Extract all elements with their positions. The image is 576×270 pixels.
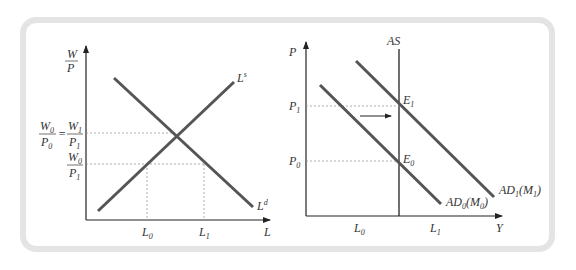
svg-text:=: = bbox=[58, 127, 66, 141]
svg-text:W0: W0 bbox=[68, 150, 82, 166]
e1-label: E1 bbox=[402, 93, 414, 109]
labor-demand-curve bbox=[114, 78, 253, 207]
ad-as-chart: P Y AS P1 P0 E1 E0 AD0(M0) AD1(M1) L0 L1 bbox=[288, 34, 541, 237]
svg-text:P1: P1 bbox=[68, 135, 80, 151]
labor-market-chart: W P L Ls Ld W0 P0 = W1 P1 W0 P1 L0 L1 bbox=[39, 46, 271, 241]
as-label: AS bbox=[386, 34, 400, 48]
x-axis-label: L bbox=[263, 225, 271, 239]
x-tick-l1-right: L1 bbox=[429, 221, 441, 237]
x-tick-l0-right: L0 bbox=[353, 221, 365, 237]
x-tick-l1: L1 bbox=[198, 225, 210, 241]
ad1-curve bbox=[356, 61, 494, 197]
economics-diagram: W P L Ls Ld W0 P0 = W1 P1 W0 P1 L0 L1 bbox=[0, 0, 576, 270]
svg-text:P1: P1 bbox=[68, 166, 80, 182]
p-axis-label: P bbox=[288, 45, 297, 59]
ad1-label: AD1(M1) bbox=[498, 183, 541, 199]
y-axis-label-den: P bbox=[66, 61, 75, 75]
x-tick-l0: L0 bbox=[141, 225, 153, 241]
e0-label: E0 bbox=[402, 152, 414, 168]
y-axis-label: Y bbox=[496, 221, 504, 235]
p0-tick: P0 bbox=[288, 154, 300, 170]
svg-text:W1: W1 bbox=[68, 119, 82, 135]
ad0-label: AD0(M0) bbox=[445, 195, 488, 211]
svg-text:P0: P0 bbox=[40, 135, 52, 151]
supply-curve-label: Ls bbox=[236, 70, 247, 85]
ad0-curve bbox=[320, 85, 441, 204]
y-axis-label-num: W bbox=[67, 47, 78, 61]
y-tick-real-wage-equilibrium: W0 P0 = W1 P1 bbox=[39, 119, 83, 151]
y-tick-real-wage-w0-p1: W0 P1 bbox=[67, 150, 83, 182]
labor-supply-curve bbox=[98, 82, 234, 211]
p1-tick: P1 bbox=[288, 99, 300, 115]
svg-text:W0: W0 bbox=[40, 119, 54, 135]
demand-curve-label: Ld bbox=[256, 198, 269, 213]
